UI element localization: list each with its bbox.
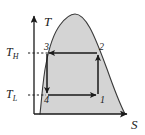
state-point-label-4: 4 [44, 95, 49, 105]
state-point-label-2: 2 [99, 42, 104, 52]
tl-subscript: L [13, 94, 17, 103]
y-axis-label: T [44, 15, 51, 28]
th-subscript: H [13, 52, 19, 61]
state-point-label-1: 1 [100, 95, 105, 105]
th-base: T [6, 45, 13, 59]
saturation-dome-area [40, 14, 125, 114]
x-axis-label: S [131, 118, 138, 131]
state-point-label-3: 3 [44, 42, 49, 52]
tl-base: T [6, 87, 13, 101]
ts-diagram-canvas [0, 0, 145, 135]
ts-diagram-figure: T S TH TL 3 2 4 1 [0, 0, 145, 135]
temperature-high-label: TH [6, 46, 18, 58]
temperature-low-label: TL [6, 88, 17, 100]
